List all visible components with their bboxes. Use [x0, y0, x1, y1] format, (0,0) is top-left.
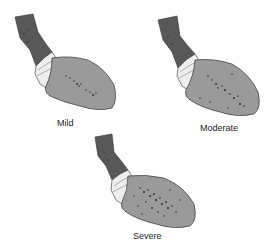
- label-mild: Mild: [57, 118, 74, 128]
- panel-severe: [95, 134, 195, 228]
- panel-mild: [15, 14, 116, 110]
- stomach-moderate: [186, 60, 260, 116]
- label-moderate: Moderate: [200, 123, 238, 133]
- stomach-mild: [46, 57, 116, 110]
- label-severe: Severe: [133, 231, 162, 241]
- panel-moderate: [158, 16, 259, 116]
- stomach-severe: [122, 175, 196, 227]
